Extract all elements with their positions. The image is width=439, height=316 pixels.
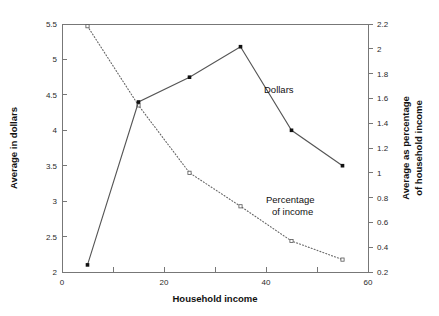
series-annotation-percentage-line2: of income xyxy=(272,206,313,217)
y-right-axis-title-line2: of household income xyxy=(413,100,424,196)
right-tick-label-1-6: 1.6 xyxy=(377,94,389,103)
dollars-marker-5 xyxy=(290,129,294,133)
y-right-axis-title-line1: Average as percentage xyxy=(400,96,411,200)
right-tick-label-0-2: 0.2 xyxy=(377,268,389,277)
right-tick-label-1-8: 1.8 xyxy=(377,70,389,79)
dollars-marker-2 xyxy=(137,100,141,104)
axes-frame xyxy=(62,24,368,272)
y-left-axis-title: Average in dollars xyxy=(8,107,19,189)
left-tick-label-3-5: 3.5 xyxy=(46,162,58,171)
right-axis-ticks: 0.2 0.4 0.6 0.8 1 1.2 1.4 1.6 1.8 2 2.2 xyxy=(368,20,389,277)
x-axis-title: Household income xyxy=(173,293,258,304)
chart-figure: 2 2.5 3 3.5 4 4.5 5 5.5 0.2 0.4 0.6 0.8 xyxy=(0,0,439,316)
left-tick-label-2-5: 2.5 xyxy=(46,233,58,242)
percentage-marker-3 xyxy=(188,171,191,174)
right-tick-label-1-4: 1.4 xyxy=(377,119,389,128)
right-tick-label-2-2: 2.2 xyxy=(377,20,389,29)
series-percentage-of-income xyxy=(86,25,344,262)
x-tick-label-20: 20 xyxy=(160,278,169,287)
left-tick-label-2: 2 xyxy=(53,268,58,277)
dollars-marker-1 xyxy=(86,263,90,267)
x-tick-label-60: 60 xyxy=(364,278,373,287)
chart-svg: 2 2.5 3 3.5 4 4.5 5 5.5 0.2 0.4 0.6 0.8 xyxy=(0,0,439,316)
left-tick-label-4-5: 4.5 xyxy=(46,91,58,100)
left-tick-label-4: 4 xyxy=(53,126,58,135)
x-axis-ticks: 0 20 40 60 xyxy=(60,267,373,287)
right-tick-label-1-2: 1.2 xyxy=(377,144,389,153)
series-dollars xyxy=(86,45,345,267)
right-tick-label-0-6: 0.6 xyxy=(377,218,389,227)
left-axis-ticks: 2 2.5 3 3.5 4 4.5 5 5.5 xyxy=(46,20,67,277)
dollars-line xyxy=(88,47,343,265)
percentage-marker-5 xyxy=(290,239,293,242)
series-annotation-percentage-line1: Percentage xyxy=(266,194,315,205)
left-tick-label-5-5: 5.5 xyxy=(46,20,58,29)
series-annotation-dollars: Dollars xyxy=(264,84,294,95)
left-tick-label-3: 3 xyxy=(53,197,58,206)
right-tick-label-2: 2 xyxy=(377,45,382,54)
x-tick-label-0: 0 xyxy=(60,278,65,287)
dollars-marker-3 xyxy=(188,75,192,79)
x-tick-label-40: 40 xyxy=(262,278,271,287)
right-tick-label-1: 1 xyxy=(377,169,382,178)
dollars-marker-4 xyxy=(239,45,243,49)
percentage-marker-6 xyxy=(341,258,344,261)
percentage-marker-1 xyxy=(86,25,89,28)
left-tick-label-5: 5 xyxy=(53,55,58,64)
right-tick-label-0-4: 0.4 xyxy=(377,243,389,252)
dollars-marker-6 xyxy=(341,164,345,168)
right-tick-label-0-8: 0.8 xyxy=(377,194,389,203)
percentage-marker-4 xyxy=(239,205,242,208)
